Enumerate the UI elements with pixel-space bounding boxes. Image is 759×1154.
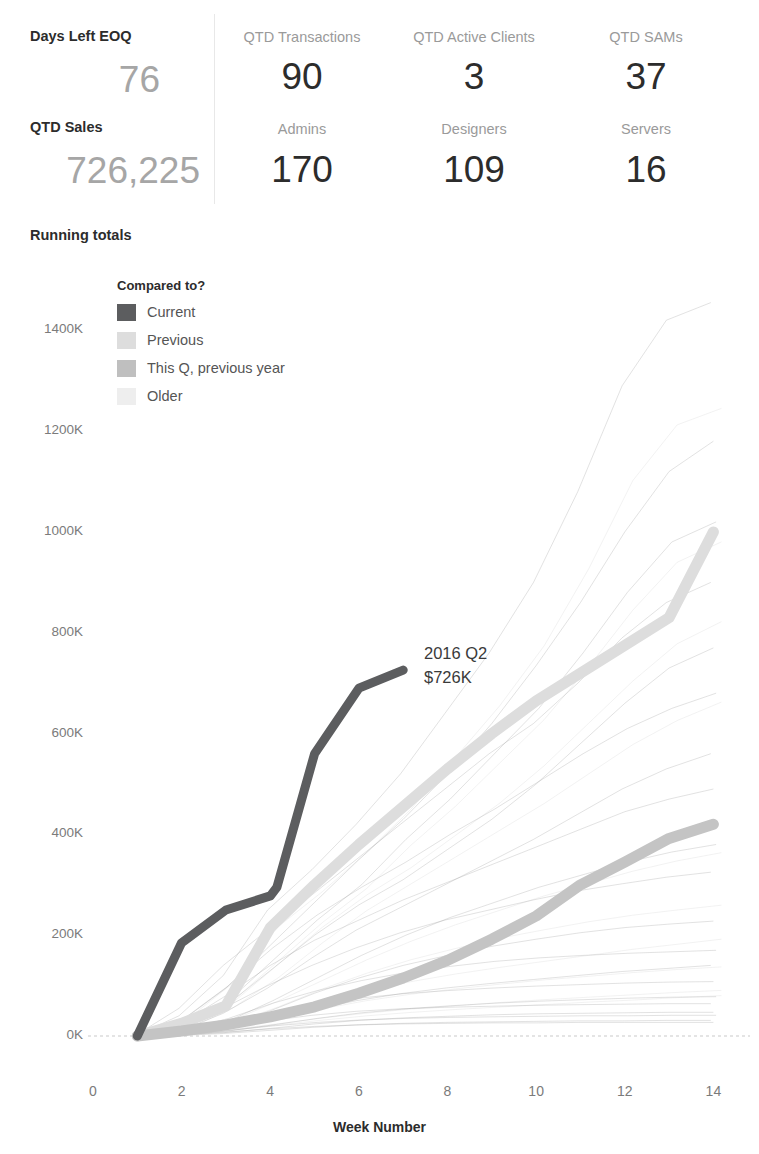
legend-item-label: Previous	[147, 332, 203, 348]
legend-item-list: CurrentPreviousThis Q, previous yearOlde…	[117, 298, 285, 410]
kpi-value-days-left-eoq: 76	[119, 58, 160, 102]
kpi-divider	[214, 14, 215, 204]
x-axis-tick-label: 14	[693, 1083, 733, 1099]
legend-swatch-icon	[117, 388, 136, 405]
kpi-label-designers: Designers	[388, 121, 560, 138]
annotation-period: 2016 Q2	[424, 641, 487, 665]
x-axis-tick-label: 4	[250, 1083, 290, 1099]
legend-item-label: Older	[147, 388, 182, 404]
kpi-label-qtd-sams: QTD SAMs	[560, 29, 732, 46]
legend-item[interactable]: Current	[117, 298, 285, 326]
kpi-value-admins: 170	[216, 148, 388, 192]
kpi-label-qtd-transactions: QTD Transactions	[216, 29, 388, 46]
legend-item-label: This Q, previous year	[147, 360, 285, 376]
chart-line-older	[137, 648, 713, 1036]
kpi-value-qtd-sams: 37	[560, 55, 732, 99]
chart-legend: Compared to? CurrentPreviousThis Q, prev…	[117, 278, 285, 410]
chart-plot-svg	[0, 250, 759, 1154]
y-axis-tick-label: 600K	[13, 725, 83, 740]
x-axis-tick-label: 8	[428, 1083, 468, 1099]
kpi-value-designers: 109	[388, 148, 560, 192]
legend-item[interactable]: This Q, previous year	[117, 354, 285, 382]
chart-title: Running totals	[30, 227, 132, 243]
annotation-value: $726K	[424, 665, 487, 689]
y-axis-tick-label: 1200K	[13, 422, 83, 437]
x-axis-title: Week Number	[0, 1119, 759, 1135]
x-axis-tick-label: 12	[605, 1083, 645, 1099]
y-axis-tick-label: 0K	[13, 1027, 83, 1042]
y-axis-tick-label: 200K	[13, 926, 83, 941]
chart-line-older	[137, 921, 713, 1036]
legend-item[interactable]: Older	[117, 382, 285, 410]
chart-line-older	[145, 408, 721, 1036]
kpi-label-admins: Admins	[216, 121, 388, 138]
y-axis-tick-label: 1000K	[13, 523, 83, 538]
kpi-label-qtd-sales: QTD Sales	[30, 119, 103, 136]
y-axis-tick-label: 1400K	[13, 321, 83, 336]
running-totals-chart	[0, 250, 759, 1154]
kpi-value-servers: 16	[560, 148, 732, 192]
legend-item-label: Current	[147, 304, 195, 320]
x-axis-tick-label: 2	[162, 1083, 202, 1099]
legend-swatch-icon	[117, 304, 136, 321]
chart-annotation: 2016 Q2 $726K	[424, 641, 487, 689]
kpi-label-servers: Servers	[560, 121, 732, 138]
y-axis-tick-label: 400K	[13, 825, 83, 840]
chart-line-older	[137, 441, 713, 1036]
x-axis-tick-label: 10	[516, 1083, 556, 1099]
kpi-value-qtd-active-clients: 3	[388, 55, 560, 99]
legend-swatch-icon	[117, 360, 136, 377]
chart-line-current	[137, 670, 403, 1036]
legend-title: Compared to?	[117, 278, 285, 293]
legend-swatch-icon	[117, 332, 136, 349]
kpi-label-days-left-eoq: Days Left EOQ	[30, 28, 132, 45]
x-axis-tick-label: 0	[73, 1083, 113, 1099]
legend-item[interactable]: Previous	[117, 326, 285, 354]
kpi-value-qtd-transactions: 90	[216, 55, 388, 99]
y-axis-tick-label: 800K	[13, 624, 83, 639]
x-axis-tick-label: 6	[339, 1083, 379, 1099]
kpi-label-qtd-active-clients: QTD Active Clients	[388, 29, 560, 46]
kpi-value-qtd-sales: 726,225	[66, 149, 200, 193]
kpi-header: Days Left EOQ 76 QTD Sales 726,225 QTD T…	[0, 0, 759, 214]
